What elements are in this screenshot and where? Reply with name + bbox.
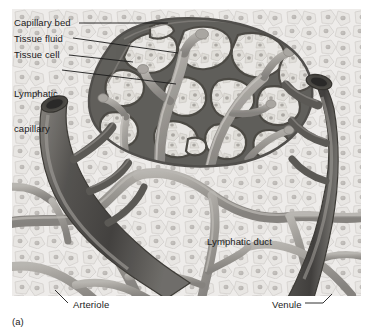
label-tissue-cell: Tissue cell [14,49,60,61]
label-lymphatic-duct: Lymphatic duct [207,236,272,248]
figure-capillary-bed: Capillary bed Tissue fluid Tissue cell L… [0,0,376,331]
label-lymphatic-capillary-line1: Lymphatic [14,88,58,100]
label-lymphatic-capillary-line2: capillary [14,123,58,135]
label-venule: Venule [272,299,302,311]
label-lymphatic-capillary: Lymphatic capillary [14,65,58,157]
anatomical-illustration [12,9,361,296]
figure-caption: (a) [12,316,24,327]
illustration-panel [12,9,361,296]
label-tissue-fluid: Tissue fluid [14,33,63,45]
label-arteriole: Arteriole [73,299,109,311]
label-capillary-bed: Capillary bed [14,17,71,29]
